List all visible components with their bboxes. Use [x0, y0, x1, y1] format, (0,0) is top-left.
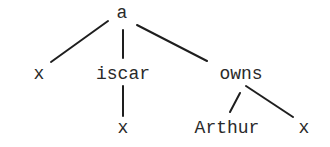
edge-a-to-owns: [137, 25, 207, 61]
edge-owns-to-arthur: [230, 93, 240, 112]
node-iscar-x: x: [118, 119, 129, 137]
node-owns-x: x: [299, 119, 310, 137]
node-iscar: iscar: [96, 65, 150, 83]
edge-a-to-x: [51, 21, 108, 62]
node-root-a: a: [117, 4, 128, 22]
edge-owns-to-x: [246, 86, 293, 117]
tree-diagram: a x iscar owns x Arthur x: [0, 0, 330, 147]
tree-edges: [0, 0, 330, 147]
node-x-left: x: [34, 65, 45, 83]
node-arthur: Arthur: [195, 119, 260, 137]
node-owns: owns: [219, 65, 262, 83]
